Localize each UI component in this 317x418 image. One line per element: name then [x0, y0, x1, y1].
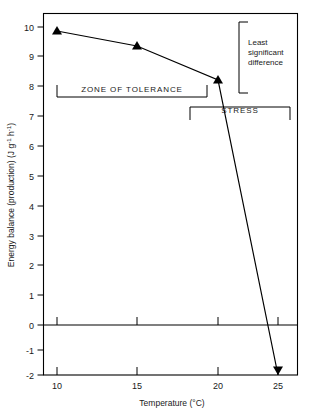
y-tick-label: 7: [29, 112, 34, 122]
figure-container: 10 9 8 7 6 5 4 3 2 1 0 -1 -2: [0, 0, 317, 418]
energy-balance-temperature-chart: 10 9 8 7 6 5 4 3 2 1 0 -1 -2: [0, 0, 317, 418]
x-tick-label: 25: [273, 381, 283, 391]
y-axis-title: Energy balance (production) (J g-1 h-1): [5, 123, 16, 267]
zone-of-tolerance-label: ZONE OF TOLERANCE: [81, 85, 183, 94]
x-tick-label: 15: [132, 381, 142, 391]
y-tick-label: 3: [29, 232, 34, 242]
y-tick-label: 6: [29, 142, 34, 152]
x-tick-label: 20: [213, 381, 223, 391]
y-axis-title-tail: ): [6, 123, 16, 126]
y-tick-label: -2: [26, 371, 34, 381]
y-tick-label: 1: [29, 291, 34, 301]
y-tick-label: 5: [29, 172, 34, 182]
lsd-label-line-2: significant: [248, 48, 284, 57]
stress-label: STRESS: [221, 106, 258, 115]
y-axis-title-main: Energy balance (production) (J g: [6, 144, 16, 268]
lsd-label-line-1: Least: [248, 38, 268, 47]
y-tick-label: 10: [24, 23, 34, 33]
y-tick-label: 4: [29, 202, 34, 212]
y-tick-label: 2: [29, 261, 34, 271]
y-tick-label: 8: [29, 82, 34, 92]
y-tick-label: 9: [29, 52, 34, 62]
lsd-label-line-3: difference: [248, 58, 284, 67]
y-tick-label: 0: [29, 321, 34, 331]
x-axis-title: Temperature (°C): [139, 398, 204, 408]
y-tick-label: -1: [26, 346, 34, 356]
x-tick-label: 10: [52, 381, 62, 391]
